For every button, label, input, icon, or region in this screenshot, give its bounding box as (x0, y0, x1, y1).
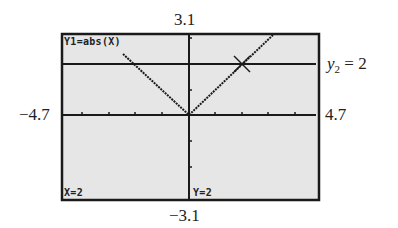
trace-x-readout: X=2 (64, 187, 83, 198)
calculator-graph-screen: Y1=abs(X) X=2 Y=2 (0, 0, 398, 228)
trace-y-readout: Y=2 (193, 187, 212, 198)
function-label: Y1=abs(X) (64, 36, 121, 47)
screen-background (62, 34, 319, 200)
